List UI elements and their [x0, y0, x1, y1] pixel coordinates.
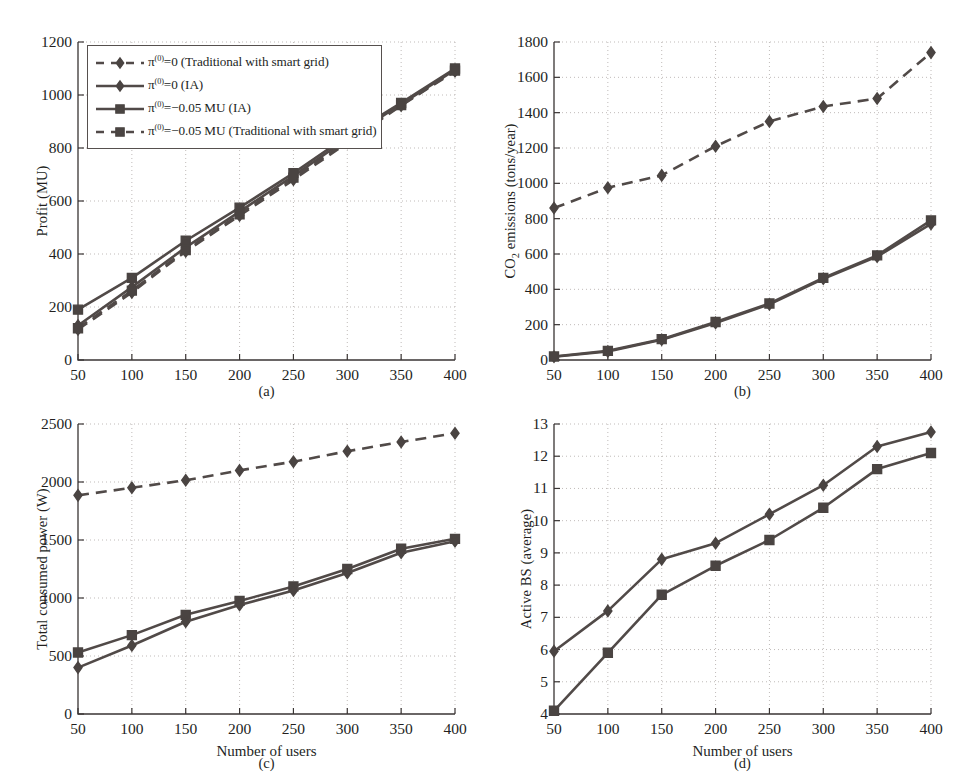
legend-item-3: π(0)=−0.05 MU (Traditional with smart gr…	[94, 120, 374, 143]
x-tick-label-d: 300	[812, 720, 835, 738]
legend-label-3: π(0)=−0.05 MU (Traditional with smart gr…	[148, 123, 376, 139]
x-tick-label-d: 350	[866, 720, 889, 738]
series-line-d-1	[554, 453, 931, 711]
x-tick-label-d: 50	[546, 720, 562, 738]
legend-label-2: π(0)=−0.05 MU (IA)	[148, 100, 251, 116]
legend-key-diamond-dashed-icon	[94, 54, 146, 72]
legend-item-0: π(0)=0 (Traditional with smart grid)	[94, 51, 374, 74]
legend-item-1: π(0)=0 (IA)	[94, 74, 374, 97]
legend-label-0: π(0)=0 (Traditional with smart grid)	[148, 54, 329, 70]
y-axis-label-d: Active BS (average)	[518, 424, 535, 714]
x-tick-label-d: 150	[650, 720, 673, 738]
x-tick-label-d: 100	[596, 720, 619, 738]
legend-key-square-solid-icon	[94, 100, 146, 118]
x-tick-label-d: 400	[919, 720, 942, 738]
legend-key-square-dashed-icon	[94, 123, 146, 141]
legend-label-1: π(0)=0 (IA)	[148, 77, 203, 93]
subplot-caption-d: (d)	[554, 755, 931, 772]
legend-key-diamond-solid-icon	[94, 77, 146, 95]
series-markers-d-0	[550, 426, 935, 656]
legend-item-2: π(0)=−0.05 MU (IA)	[94, 97, 374, 120]
x-tick-label-d: 200	[704, 720, 727, 738]
legend: π(0)=0 (Traditional with smart grid)π(0)…	[87, 45, 382, 149]
x-tick-label-d: 250	[758, 720, 781, 738]
